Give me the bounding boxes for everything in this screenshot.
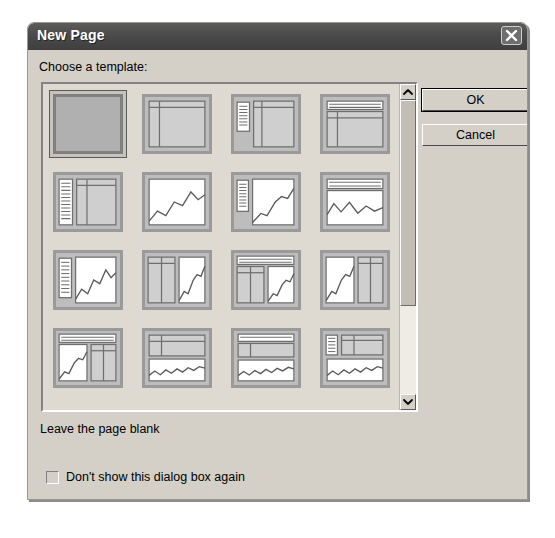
template-thumbnail-full-chart-icon — [142, 172, 212, 232]
dialog-titlebar: New Page — [28, 23, 527, 50]
template-header-columns-and-chart[interactable] — [228, 247, 304, 313]
ok-button[interactable]: OK — [422, 89, 528, 111]
screen: New Page Choose a template: — [0, 0, 555, 538]
template-text-panel-and-columns[interactable] — [50, 169, 126, 235]
template-thumbnail-side-text-and-chart-icon — [53, 250, 123, 310]
template-row — [50, 91, 402, 157]
template-row — [50, 325, 402, 391]
template-header-and-two-columns[interactable] — [317, 91, 393, 157]
template-row — [50, 169, 402, 235]
template-thumbnail-header-columns-and-chart-icon — [231, 250, 301, 310]
template-thumbnail-header-and-chart-icon — [320, 172, 390, 232]
template-row — [50, 247, 402, 313]
template-thumbnail-header-chart-and-table-icon — [53, 328, 123, 388]
dont-show-again-label: Don't show this dialog box again — [66, 470, 245, 484]
close-button[interactable] — [501, 26, 522, 45]
template-listbox[interactable] — [41, 82, 418, 412]
dialog-title: New Page — [37, 27, 105, 43]
template-header-chart-and-table[interactable] — [50, 325, 126, 391]
template-grid — [43, 84, 402, 410]
template-thumbnail-chart-and-columns-icon — [320, 250, 390, 310]
template-blank-page[interactable] — [50, 91, 126, 157]
cancel-button[interactable]: Cancel — [422, 124, 528, 146]
dont-show-again-checkbox[interactable] — [46, 471, 59, 484]
template-header-table-and-wide-chart[interactable] — [228, 325, 304, 391]
template-thumbnail-blank-page-icon — [53, 94, 123, 154]
template-description: Leave the page blank — [40, 422, 160, 436]
template-side-text-and-chart[interactable] — [50, 247, 126, 313]
template-list-and-two-columns[interactable] — [228, 91, 304, 157]
scroll-down-button[interactable] — [400, 394, 416, 410]
template-scrollbar[interactable] — [399, 84, 416, 410]
template-thumbnail-text-panel-and-columns-icon — [53, 172, 123, 232]
template-thumbnail-list-and-chart-icon — [231, 172, 301, 232]
template-chart-and-columns[interactable] — [317, 247, 393, 313]
template-header-and-chart[interactable] — [317, 169, 393, 235]
template-table-over-wide-chart[interactable] — [139, 325, 215, 391]
new-page-dialog: New Page Choose a template: — [27, 22, 528, 500]
template-thumbnail-table-over-wide-chart-icon — [142, 328, 212, 388]
template-full-chart[interactable] — [139, 169, 215, 235]
template-columns-and-chart[interactable] — [139, 247, 215, 313]
scrollbar-track[interactable] — [400, 100, 416, 394]
template-thumbnail-header-and-two-columns-icon — [320, 94, 390, 154]
template-thumbnail-list-and-two-columns-icon — [231, 94, 301, 154]
template-two-column-text[interactable] — [139, 91, 215, 157]
choose-template-label: Choose a template: — [39, 60, 147, 74]
template-list-and-chart[interactable] — [228, 169, 304, 235]
template-list-table-and-wide-chart[interactable] — [317, 325, 393, 391]
template-thumbnail-list-table-and-wide-chart-icon — [320, 328, 390, 388]
template-thumbnail-header-table-and-wide-chart-icon — [231, 328, 301, 388]
scroll-up-button[interactable] — [400, 84, 416, 100]
dialog-body: Choose a template: — [28, 50, 527, 500]
template-thumbnail-columns-and-chart-icon — [142, 250, 212, 310]
scrollbar-thumb[interactable] — [400, 100, 416, 306]
dont-show-again-row[interactable]: Don't show this dialog box again — [46, 470, 245, 484]
template-thumbnail-two-column-text-icon — [142, 94, 212, 154]
